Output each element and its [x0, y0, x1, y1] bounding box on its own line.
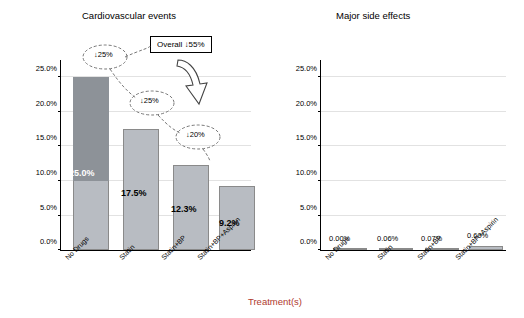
ytick-label-15: 15.0%: [36, 133, 57, 142]
reduction-step-3-label: ↓20%: [186, 130, 205, 139]
ytickmark-15: [58, 145, 61, 146]
bar-no-drugs-upper-shade: [73, 77, 109, 181]
left-plot-area: 25.0% 20.0% 15.0% 10.0% 5.0% 0.0% 25.: [60, 60, 251, 251]
ytickmark-5: [58, 215, 61, 216]
reduction-step-1-label: ↓25%: [94, 50, 113, 59]
bar-value-statin-side: 0.06%: [377, 234, 398, 243]
ytick-label-20-r: 20.0%: [296, 98, 317, 107]
gridline-5-r: [321, 215, 506, 216]
major-side-effects-panel: Major side effects 25.0% 20.0% 15.0% 10.…: [272, 0, 524, 318]
right-chart-title: Major side effects: [336, 10, 410, 21]
ytick-label-5: 5.0%: [40, 202, 57, 211]
bar-value-statin: 17.5%: [121, 188, 147, 198]
ytick-label-5-r: 5.0%: [300, 202, 317, 211]
ytick-label-20: 20.0%: [36, 98, 57, 107]
ytick-label-0: 0.0%: [40, 237, 57, 246]
overall-reduction-box: Overall ↓55%: [150, 36, 212, 53]
ytick-label-25: 25.0%: [36, 64, 57, 73]
ytickmark-20-r: [318, 111, 321, 112]
gridline-15-r: [321, 145, 506, 146]
x-axis-label: Treatment(s): [248, 296, 302, 307]
reduction-step-2-label: ↓25%: [140, 96, 159, 105]
ytick-label-10: 10.0%: [36, 167, 57, 176]
ytickmark-0-r: [318, 249, 321, 250]
chart-figure: Cardiovascular events Absolute risk of e…: [0, 0, 524, 318]
ytickmark-5-r: [318, 215, 321, 216]
left-chart-title: Cardiovascular events: [82, 10, 176, 21]
right-plot-area: 25.0% 20.0% 15.0% 10.0% 5.0% 0.0% 0.00% …: [320, 60, 506, 251]
ytickmark-25-r: [318, 76, 321, 77]
gridline-20-r: [321, 111, 506, 112]
ytickmark-0: [58, 249, 61, 250]
ytickmark-10: [58, 180, 61, 181]
ytickmark-25: [58, 76, 61, 77]
ytickmark-10-r: [318, 180, 321, 181]
bar-statin-bp-aspirin-side: [469, 246, 503, 250]
gridline-10-r: [321, 180, 506, 181]
ytick-label-10-r: 10.0%: [296, 167, 317, 176]
bar-value-no-drugs: 25.0%: [69, 168, 95, 178]
gridline-25-r: [321, 76, 506, 77]
ytick-label-25-r: 25.0%: [296, 64, 317, 73]
bar-value-statin-bp: 12.3%: [171, 204, 197, 214]
ytick-label-0-r: 0.0%: [300, 237, 317, 246]
cardiovascular-events-panel: Cardiovascular events Absolute risk of e…: [0, 0, 272, 318]
ytick-label-15-r: 15.0%: [296, 133, 317, 142]
ytickmark-15-r: [318, 145, 321, 146]
ytickmark-20: [58, 111, 61, 112]
